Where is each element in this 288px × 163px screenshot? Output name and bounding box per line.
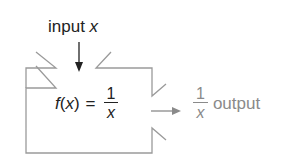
- output-arrow-icon: [151, 107, 181, 115]
- function-formula: f(x) = 1 x: [55, 86, 118, 121]
- input-arrow-icon: [75, 42, 83, 72]
- output-label: 1 x output: [193, 86, 260, 121]
- function-fraction: 1 x: [104, 86, 119, 121]
- output-fraction: 1 x: [193, 86, 208, 121]
- function-machine-diagram: [0, 0, 288, 163]
- input-variable: x: [90, 17, 99, 36]
- input-label: input x: [48, 17, 98, 37]
